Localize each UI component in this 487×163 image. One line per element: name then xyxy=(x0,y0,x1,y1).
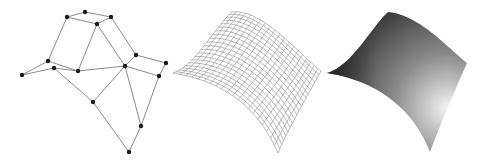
shaded-surface-panel xyxy=(327,12,467,152)
control-net-edge xyxy=(129,126,141,152)
control-net-edge xyxy=(48,17,67,61)
control-net-edge xyxy=(125,66,141,126)
surface-shadow xyxy=(327,12,467,152)
control-net-edge xyxy=(22,68,54,75)
control-net-edge xyxy=(67,12,85,17)
control-net-edge xyxy=(93,66,125,102)
control-net-edge xyxy=(136,55,166,63)
control-net-edges xyxy=(22,12,166,152)
control-net-panel xyxy=(20,10,168,154)
control-net-edge xyxy=(78,24,97,71)
control-point xyxy=(127,150,131,154)
control-point xyxy=(46,59,50,63)
wireframe-isoline xyxy=(198,15,251,79)
control-point xyxy=(76,69,80,73)
wireframe-isoline xyxy=(204,17,256,81)
control-net-edge xyxy=(125,66,159,76)
control-point xyxy=(139,124,143,128)
control-net-edge xyxy=(54,68,93,102)
bezier-surface-figure xyxy=(0,0,487,163)
control-point xyxy=(20,73,24,77)
control-point xyxy=(123,64,127,68)
figure-canvas xyxy=(0,0,487,163)
control-net-edge xyxy=(22,61,48,75)
control-net-edge xyxy=(141,76,159,126)
wireframe-isoline xyxy=(215,31,308,94)
control-point xyxy=(134,53,138,57)
wireframe-isoline xyxy=(192,13,246,77)
control-net-edge xyxy=(93,102,129,152)
control-net-edge xyxy=(97,24,125,66)
control-point xyxy=(109,15,113,19)
control-point xyxy=(65,15,69,19)
control-net-edge xyxy=(159,63,166,76)
control-point xyxy=(164,61,168,65)
control-point xyxy=(91,100,95,104)
control-point xyxy=(95,22,99,26)
control-net-edge xyxy=(78,66,125,71)
wireframe-isoline xyxy=(274,68,317,145)
control-net-edge xyxy=(97,17,111,24)
control-point xyxy=(157,74,161,78)
control-net-edge xyxy=(67,17,97,24)
control-net-edge xyxy=(85,12,111,17)
control-point xyxy=(52,66,56,70)
wireframe-isoline xyxy=(271,65,315,138)
control-net-edge xyxy=(125,55,136,66)
control-point xyxy=(83,10,87,14)
control-net-edge xyxy=(111,17,136,55)
wireframe-surface-panel xyxy=(173,12,321,153)
